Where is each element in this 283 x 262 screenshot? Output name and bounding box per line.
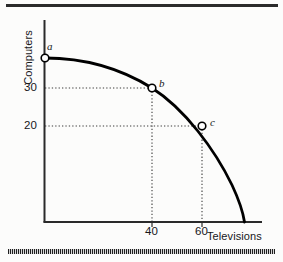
y-tick-label-30: 30	[24, 82, 37, 94]
bottom-rule	[8, 249, 275, 254]
x-axis-label: Televisions	[207, 231, 262, 242]
point-label-c: c	[210, 117, 215, 128]
point-label-a: a	[47, 41, 53, 52]
data-point-a[interactable]	[41, 54, 49, 62]
data-point-b[interactable]	[148, 84, 156, 92]
point-label-b: b	[159, 78, 165, 89]
x-tick-label-60: 60	[195, 226, 208, 238]
x-tick-label-40: 40	[145, 226, 158, 238]
data-point-c[interactable]	[198, 122, 206, 130]
ppf-curve	[45, 58, 245, 222]
y-tick-label-20: 20	[24, 120, 37, 132]
figure-page: Computers Televisions 30 20 40 60 a b c	[0, 0, 283, 262]
chart-svg	[0, 0, 283, 262]
ppf-chart: Computers Televisions 30 20 40 60 a b c	[0, 0, 283, 262]
